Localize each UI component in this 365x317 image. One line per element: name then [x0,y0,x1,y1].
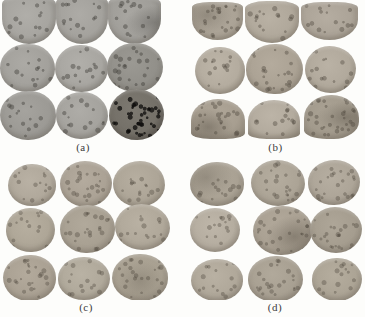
sample-disc-a4 [0,44,55,92]
sample-disc-b6 [305,46,356,93]
sample-disc-c7 [3,255,56,300]
panel-b: (b) [186,0,365,158]
sample-disc-c9 [112,254,168,300]
panel-b-discs [186,0,365,140]
sample-disc-b2 [245,1,299,43]
sample-disc-b9 [304,95,359,139]
sample-disc-d8 [248,256,303,300]
sample-disc-b1 [192,2,243,40]
sample-disc-a9 [109,89,164,140]
sample-disc-d1 [190,162,244,206]
sample-disc-c6 [115,204,170,250]
sample-disc-c2 [60,161,112,207]
sample-disc-c8 [58,257,110,300]
sample-disc-d4 [190,208,240,252]
sample-disc-b4 [195,47,245,94]
sample-disc-b7 [191,99,245,139]
sample-disc-d3 [308,160,360,205]
panel-d-discs [185,158,365,300]
sample-disc-a3 [108,0,161,44]
sample-disc-c3 [113,161,165,207]
sample-disc-c1 [8,164,56,206]
panel-c-label: (c) [0,300,172,315]
sample-disc-c4 [6,208,55,252]
panel-c-discs [0,158,172,300]
sample-disc-d9 [312,258,362,300]
sample-disc-a5 [55,45,108,92]
sample-disc-d6 [310,207,362,253]
sample-disc-a2 [56,0,108,44]
sample-disc-a7 [0,91,56,140]
sample-disc-a8 [56,92,108,139]
sample-disc-b8 [248,100,300,139]
panel-b-label: (b) [186,140,365,155]
panel-a-discs [0,0,166,140]
panel-d-label: (d) [185,300,365,315]
panel-a-label: (a) [0,140,166,155]
sample-disc-d7 [191,259,243,300]
panel-a: (a) [0,0,166,158]
sample-disc-c5 [60,205,115,253]
sample-disc-d5 [253,206,312,255]
figure-photo-grid: (a) (b) (c) (d) [0,0,365,317]
sample-disc-b3 [301,2,358,40]
sample-disc-b5 [246,44,303,94]
sample-disc-a1 [2,0,56,44]
sample-disc-a6 [107,43,163,92]
panel-d: (d) [185,158,365,317]
panel-c: (c) [0,158,172,317]
sample-disc-d2 [251,160,305,206]
